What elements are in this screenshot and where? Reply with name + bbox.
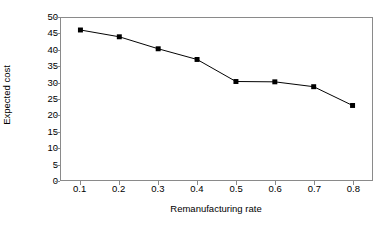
y-tick-mark [55, 115, 60, 116]
data-point-marker [311, 84, 316, 89]
y-tick-label: 30 [20, 78, 58, 88]
x-axis-label: Remanufacturing rate [56, 203, 376, 214]
data-point-marker [156, 46, 161, 51]
y-tick-label: 25 [20, 94, 58, 104]
y-tick-mark [55, 181, 60, 182]
y-tick-mark [55, 83, 60, 84]
data-point-marker [78, 28, 83, 33]
y-tick-label: 20 [20, 110, 58, 120]
data-point-marker [233, 79, 238, 84]
x-tick-mark [275, 181, 276, 185]
y-tick-label: 45 [20, 28, 58, 38]
y-tick-label: 10 [20, 143, 58, 153]
y-tick-label: 50 [20, 12, 58, 22]
y-tick-mark [55, 50, 60, 51]
x-tick-mark [197, 181, 198, 185]
x-tick-mark [314, 181, 315, 185]
x-tick-mark [80, 181, 81, 185]
data-point-marker [350, 103, 355, 108]
y-tick-mark [55, 66, 60, 67]
plot-area [60, 17, 373, 181]
x-tick-mark [119, 181, 120, 185]
y-tick-mark [55, 17, 60, 18]
data-point-marker [195, 57, 200, 62]
x-tick-mark [236, 181, 237, 185]
y-tick-mark [55, 33, 60, 34]
series-line [80, 30, 352, 105]
data-point-marker [272, 79, 277, 84]
y-tick-label: 35 [20, 61, 58, 71]
y-tick-mark [55, 132, 60, 133]
y-axis-label: Expected cost [0, 0, 14, 190]
y-tick-label: 40 [20, 45, 58, 55]
data-point-marker [117, 34, 122, 39]
series-line-plot [61, 18, 372, 180]
y-tick-mark [55, 148, 60, 149]
x-tick-mark [353, 181, 354, 185]
y-tick-label: 5 [20, 160, 58, 170]
x-axis-tick-labels: 0.10.20.30.40.50.60.70.8 [0, 183, 389, 199]
x-tick-mark [158, 181, 159, 185]
y-tick-mark [55, 99, 60, 100]
y-tick-label: 15 [20, 127, 58, 137]
chart-figure: Expected cost 05101520253035404550 0.10.… [0, 0, 389, 227]
y-tick-mark [55, 165, 60, 166]
